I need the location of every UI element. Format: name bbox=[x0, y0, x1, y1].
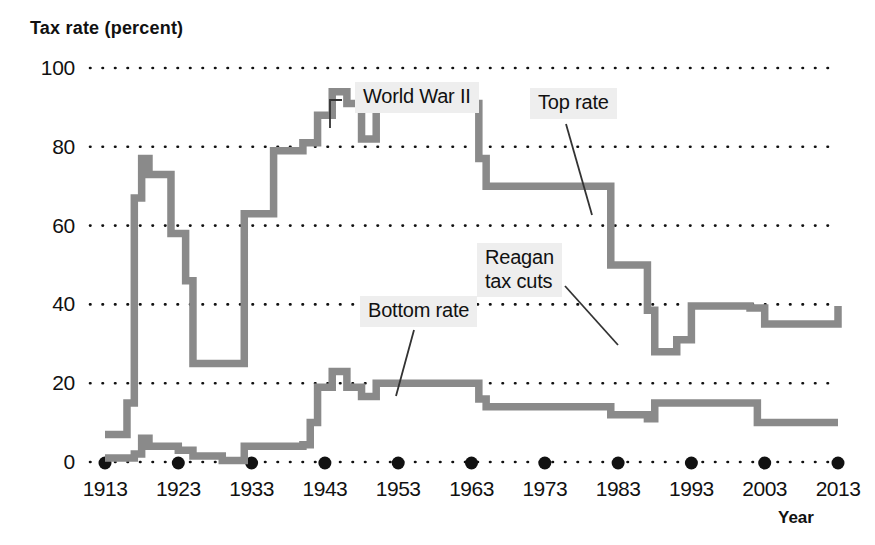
x-tick-label-1983: 1983 bbox=[578, 477, 658, 501]
x-tick-label-1973: 1973 bbox=[505, 477, 585, 501]
annotation-leader-line bbox=[566, 124, 592, 215]
y-tick-label-20: 20 bbox=[15, 371, 75, 395]
x-tick-label-1963: 1963 bbox=[432, 477, 512, 501]
annotation-reagan-tax-cuts: Reagan tax cuts bbox=[477, 243, 562, 297]
x-tick-label-1913: 1913 bbox=[65, 477, 145, 501]
x-tick-dot-2013 bbox=[832, 457, 845, 470]
x-tick-label-1933: 1933 bbox=[212, 477, 292, 501]
x-tick-label-1923: 1923 bbox=[138, 477, 218, 501]
x-tick-dot-1983 bbox=[612, 457, 625, 470]
x-tick-dot-1993 bbox=[685, 457, 698, 470]
y-tick-label-40: 40 bbox=[15, 292, 75, 316]
x-tick-dot-1973 bbox=[538, 457, 551, 470]
annotation-bottom-rate: Bottom rate bbox=[360, 296, 477, 327]
y-tick-label-80: 80 bbox=[15, 135, 75, 159]
y-tick-label-60: 60 bbox=[15, 214, 75, 238]
series-line-bottom-rate bbox=[105, 371, 838, 460]
x-tick-dot-2003 bbox=[758, 457, 771, 470]
y-tick-label-0: 0 bbox=[15, 450, 75, 474]
x-tick-label-1953: 1953 bbox=[358, 477, 438, 501]
y-tick-label-100: 100 bbox=[15, 56, 75, 80]
annotation-leader-line bbox=[565, 286, 618, 345]
annotation-top-rate: Top rate bbox=[530, 88, 617, 119]
x-tick-dot-1953 bbox=[392, 457, 405, 470]
x-tick-dot-1943 bbox=[318, 457, 331, 470]
tax-rate-chart: Tax rate (percent) Year 020406080100 191… bbox=[0, 0, 875, 545]
annotation-world-war-ii: World War II bbox=[355, 82, 479, 113]
x-tick-label-2003: 2003 bbox=[725, 477, 805, 501]
x-tick-label-1943: 1943 bbox=[285, 477, 365, 501]
x-tick-label-1993: 1993 bbox=[651, 477, 731, 501]
x-tick-dot-1963 bbox=[465, 457, 478, 470]
x-tick-label-2013: 2013 bbox=[798, 477, 875, 501]
x-tick-dot-1923 bbox=[172, 457, 185, 470]
